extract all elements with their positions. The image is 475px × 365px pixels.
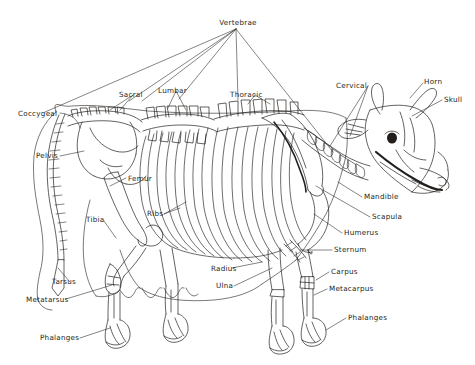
label-coccygeal: Coccygeal — [18, 109, 57, 118]
coccygeal-vertebrae — [47, 114, 67, 296]
label-mandible: Mandible — [364, 192, 399, 201]
skeleton-diagram: VertebraeCoccygealSacralLumbarThoracicCe… — [0, 0, 475, 365]
label-ribs: Ribs — [147, 209, 163, 218]
fore-limb-near — [268, 248, 294, 354]
hind-limb-far — [160, 248, 188, 342]
lumbar-vertebrae — [141, 106, 216, 144]
label-pelvis: Pelvis — [36, 151, 58, 160]
label-metatarsus: Metatarsus — [26, 295, 69, 304]
hind-limb-femur-tibia — [104, 172, 163, 348]
label-ulna: Ulna — [216, 281, 233, 290]
label-carpus: Carpus — [331, 267, 358, 276]
label-metacarpus: Metacarpus — [329, 284, 374, 293]
label-phalanges-front: Phalanges — [348, 313, 387, 322]
skull — [338, 84, 449, 194]
label-skull: Skull — [444, 95, 462, 104]
label-cervical: Cervical — [336, 81, 367, 90]
body-outline — [33, 104, 347, 310]
label-phalanges-hind: Phalanges — [40, 333, 79, 342]
label-sacral: Sacral — [119, 90, 143, 99]
fore-limb-far — [296, 250, 326, 346]
rib-cage — [140, 127, 306, 262]
label-scapula: Scapula — [372, 212, 402, 221]
label-vertebrae: Vertebrae — [219, 18, 257, 27]
label-radius: Radius — [211, 264, 237, 273]
scapula — [262, 113, 324, 196]
label-lumbar: Lumbar — [158, 86, 187, 95]
label-femur: Femur — [128, 174, 152, 183]
label-sternum: Sternum — [334, 245, 367, 254]
label-thoracic: Thoracic — [230, 90, 263, 99]
humerus — [298, 190, 329, 254]
label-humerus: Humerus — [344, 228, 378, 237]
thoracic-vertebrae — [214, 99, 304, 132]
label-tarsus: Tarsus — [52, 277, 76, 286]
skeleton-illustration — [0, 0, 475, 365]
label-horn: Horn — [424, 77, 442, 86]
label-tibia: Tibia — [86, 215, 104, 224]
